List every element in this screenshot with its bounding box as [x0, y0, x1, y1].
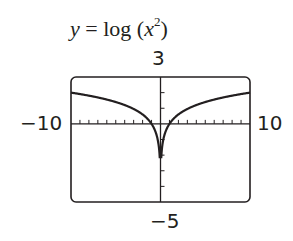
- graph-window: [0, 0, 293, 241]
- axes: [71, 77, 250, 202]
